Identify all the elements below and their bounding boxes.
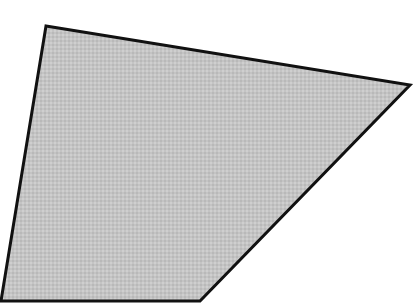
quadrilateral-diagram <box>0 0 416 303</box>
quadrilateral-shape <box>1 26 410 301</box>
diagram-canvas <box>0 0 416 303</box>
